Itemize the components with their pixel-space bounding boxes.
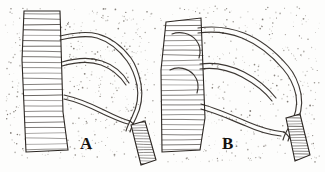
figure-label-a: A [80,134,92,154]
engraving-plate: A B [0,0,325,172]
figure-b-trunk [157,18,209,152]
figure-label-b: B [222,134,233,154]
anatomical-illustration [0,0,325,172]
